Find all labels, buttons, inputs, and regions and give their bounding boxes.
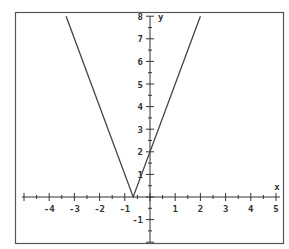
graph-panel: -4-3-2-112345-112345678xy — [0, 0, 289, 249]
x-tick-label: -4 — [44, 204, 55, 214]
x-tick-label: -2 — [94, 204, 105, 214]
x-tick-label: -1 — [119, 204, 130, 214]
y-tick-label: -1 — [132, 215, 143, 225]
x-tick-label: 2 — [198, 204, 203, 214]
x-tick-label: 3 — [223, 204, 228, 214]
y-tick-label: 4 — [138, 102, 144, 112]
y-tick-label: 8 — [138, 12, 143, 22]
y-axis-label: y — [158, 12, 164, 22]
y-tick-label: 5 — [138, 80, 143, 90]
y-tick-label: 3 — [138, 125, 143, 135]
y-tick-label: 2 — [138, 147, 143, 157]
x-axis-label: x — [274, 182, 280, 192]
y-tick-label: 6 — [138, 57, 143, 67]
x-tick-label: 5 — [273, 204, 278, 214]
function-graph: -4-3-2-112345-112345678xy — [0, 0, 289, 249]
x-tick-label: 4 — [248, 204, 254, 214]
x-tick-label: -3 — [69, 204, 80, 214]
x-tick-label: 1 — [172, 204, 177, 214]
y-tick-label: 7 — [138, 34, 143, 44]
